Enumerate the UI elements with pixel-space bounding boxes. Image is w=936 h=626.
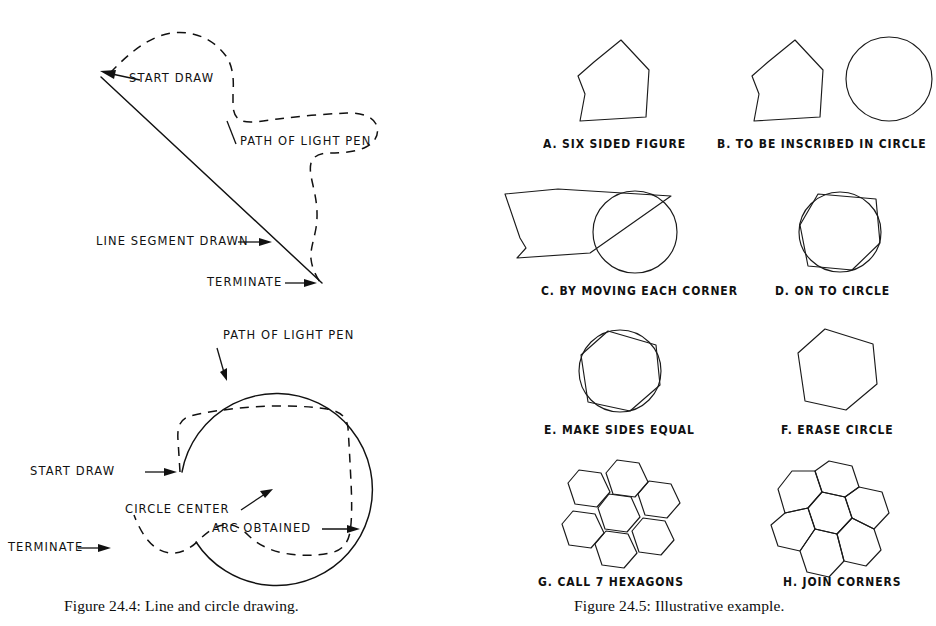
panel-c-shape	[505, 189, 677, 273]
figure-page: START DRAW PATH OF LIGHT PEN LINE SEGMEN…	[0, 0, 936, 626]
line-segment-drawn-arrowhead	[259, 238, 272, 246]
annotation-terminate-circle: TERMINATE	[8, 542, 83, 554]
arc-obtained-stroke	[182, 394, 372, 586]
annotation-start-draw-circle: START DRAW	[30, 466, 115, 478]
panel-label-d: D. ON TO CIRCLE	[775, 287, 890, 299]
start-draw-arrowhead-circle	[164, 468, 177, 476]
circle-drawing-svg	[0, 320, 468, 600]
annotation-path-of-light-pen-line: PATH OF LIGHT PEN	[240, 136, 371, 148]
panel-label-e: E. MAKE SIDES EQUAL	[544, 426, 695, 438]
terminate-arrowhead	[304, 279, 317, 287]
panel-label-f: F. ERASE CIRCLE	[781, 426, 894, 438]
panel-b-shape	[752, 37, 932, 121]
path-of-light-pen-leader	[227, 121, 236, 144]
panel-f-shape	[798, 329, 877, 410]
line-segment-drawn-stroke	[101, 77, 322, 283]
illustrative-example-svg	[468, 0, 936, 600]
panel-label-g: G. CALL 7 HEXAGONS	[538, 578, 684, 590]
panel-label-a: A. SIX SIDED FIGURE	[543, 140, 686, 152]
line-drawing-svg	[0, 0, 468, 320]
figure-24-5: A. SIX SIDED FIGURE B. TO BE INSCRIBED I…	[468, 0, 936, 626]
terminate-arrowhead-circle	[98, 544, 111, 552]
panel-a-shape	[578, 40, 649, 121]
annotation-terminate-line: TERMINATE	[207, 277, 282, 289]
annotation-start-draw-line: START DRAW	[129, 73, 214, 85]
panel-label-b: B. TO BE INSCRIBED IN CIRCLE	[717, 140, 927, 152]
annotation-circle-center: CIRCLE CENTER	[125, 504, 230, 516]
panel-label-h: H. JOIN CORNERS	[783, 578, 901, 590]
annotation-line-segment-drawn: LINE SEGMENT DRAWN	[96, 236, 249, 248]
caption-figure-24-5: Figure 24.5: Illustrative example.	[574, 597, 784, 615]
arc-obtained-arrowhead	[347, 525, 360, 533]
annotation-path-of-light-pen-circle: PATH OF LIGHT PEN	[223, 330, 354, 342]
annotation-arc-obtained: ARC OBTAINED	[212, 523, 311, 535]
panel-h-shape	[771, 461, 889, 577]
panel-d-shape	[799, 192, 881, 272]
panel-g-shape	[562, 460, 680, 568]
figure-24-4: START DRAW PATH OF LIGHT PEN LINE SEGMEN…	[0, 0, 468, 626]
panel-e-shape	[579, 330, 661, 412]
panel-label-c: C. BY MOVING EACH CORNER	[541, 287, 738, 299]
caption-figure-24-4: Figure 24.4: Line and circle drawing.	[64, 597, 299, 615]
